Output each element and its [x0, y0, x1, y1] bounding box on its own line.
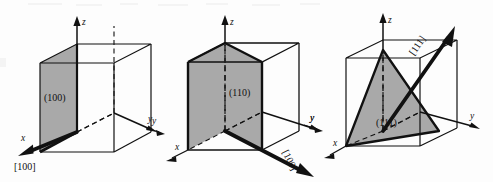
left-y-axis-label: y	[151, 116, 157, 126]
z-axis-label: z	[229, 17, 234, 27]
direction-label-100: [100]	[14, 161, 36, 172]
z-axis-label: z	[387, 15, 392, 25]
panel-110-svg: z y x y	[160, 0, 330, 182]
panel-110: z y x y	[160, 0, 330, 182]
panel-100-svg: z y x (100) [100]	[0, 0, 165, 182]
z-axis-label: z	[81, 17, 86, 27]
plane-label-110: (110)	[229, 87, 250, 99]
panel-111-svg: z y x y	[320, 0, 493, 182]
x-axis-label: x	[20, 133, 26, 143]
panel-100: z y x (100) [100]	[0, 0, 165, 182]
miller-indices-figure: z y x (100) [100]	[0, 0, 493, 182]
y-axis	[77, 113, 157, 132]
x-axis-label: x	[174, 142, 180, 152]
left-y-axis-label: y	[309, 113, 315, 123]
panel-111: z y x y	[320, 0, 493, 182]
y-axis-label: y	[469, 111, 475, 121]
plane-label-100: (100)	[44, 92, 66, 104]
x-axis-label: x	[332, 138, 338, 148]
direction-arrow-100	[225, 131, 314, 177]
direction-label-111: [111]	[407, 34, 428, 57]
plane-label-111: (111)	[376, 117, 397, 129]
